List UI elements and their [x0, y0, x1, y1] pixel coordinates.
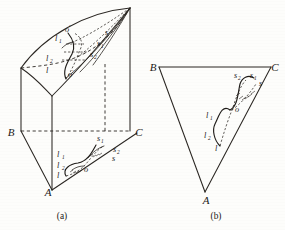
curve-sub-s2-base-a: 2	[117, 149, 120, 155]
curve-sub-s2-b: 2	[238, 75, 241, 81]
caption-b: (b)	[211, 211, 222, 222]
curve-label-l1-top-a: l	[55, 34, 58, 43]
curve-label-l2-base-a: l	[57, 161, 60, 170]
base-edge-B-A	[21, 131, 52, 190]
curve-label-s2-top-a: s	[90, 50, 93, 59]
panel-b-group: B C A s 2 s 1 s o l 1 l 2 l	[150, 61, 280, 206]
curve-label-s-base-a: s	[112, 154, 115, 163]
curve-label-l1-base-a: l	[57, 150, 60, 159]
curve-label-s1-b: s	[250, 71, 253, 80]
curve-label-l-base-a: l	[57, 171, 60, 180]
curve-sub-l2-base-a: 2	[62, 165, 65, 171]
vertex-label-B-a: B	[8, 126, 15, 138]
curve-label-o-base-a: o	[84, 165, 88, 174]
curve-sub-l1-b: 1	[210, 115, 213, 121]
top-rim-B-to-C	[21, 8, 130, 68]
curve-sub-s1-b: 1	[254, 75, 257, 81]
curve-sub-l1-base-a: 1	[62, 154, 65, 160]
curve-sub-s1-base-a: 1	[101, 138, 104, 144]
curve-sub-s1-top-a: 1	[101, 43, 104, 49]
curve-label-l-top-a: l	[46, 66, 49, 75]
vertex-label-A-a: A	[44, 186, 52, 198]
curve-label-l1-b: l	[206, 111, 209, 120]
curve-label-s2-base-a: s	[113, 145, 116, 154]
curve-label-l2-top-a: l	[46, 54, 49, 63]
geometry-figure-svg: B C A l 1 l 2 l o s 1 s 2 s o ' l	[0, 0, 285, 230]
top-face-arc-tick	[62, 42, 74, 48]
curve-label-l2-b: l	[204, 131, 207, 140]
panel-a-top-curve-labels: o ' l 1 l 2 l o ' s s 1 s 2	[46, 24, 108, 79]
curve-label-s-b: s	[259, 79, 262, 88]
curve-label-s2-b: s	[234, 71, 237, 80]
curve-label-s1-base-a: s	[97, 134, 100, 143]
caption-a: (a)	[57, 211, 67, 222]
curve-sub-l2-b: 2	[208, 135, 211, 141]
curve-label-s1-top-a: s	[97, 39, 100, 48]
panel-b-curve-chord	[220, 80, 246, 146]
vertex-label-C-a: C	[135, 126, 143, 138]
curve-label-l-b: l	[215, 144, 218, 153]
curve-sub-oprime-top-a: '	[69, 24, 71, 30]
vertex-label-B-b: B	[150, 61, 157, 73]
top-rim-hidden-B-C	[21, 8, 130, 68]
panel-b-curve-labels: s 2 s 1 s o l 1 l 2 l	[204, 71, 262, 153]
panel-a-group: B C A l 1 l 2 l o s 1 s 2 s o ' l	[8, 8, 144, 198]
curve-sub-s2-top-a: 2	[94, 54, 97, 60]
base-edge-A-C	[52, 133, 137, 190]
vertex-label-A-b: A	[202, 194, 210, 206]
figure-root: B C A l 1 l 2 l o s 1 s 2 s o ' l	[0, 0, 285, 230]
curve-sub-l1-top-a: 1	[59, 38, 62, 44]
curve-sub-l2-top-a: 2	[50, 58, 53, 64]
curve-label-s-top-a: s	[105, 28, 108, 37]
panel-b-edge-B-A	[159, 67, 205, 192]
base-face-hatching-left	[70, 170, 82, 173]
vertex-label-C-b: C	[271, 61, 279, 73]
curve-label-o-b: o	[235, 105, 239, 114]
